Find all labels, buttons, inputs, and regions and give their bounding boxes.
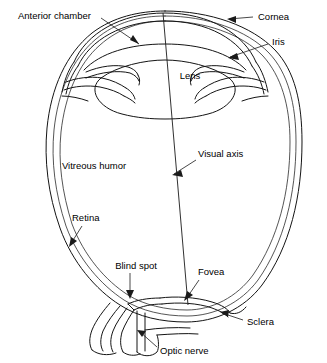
label-anterior-chamber: Anterior chamber: [18, 10, 139, 44]
visual-axis-arrowhead: [172, 170, 183, 177]
retina-label: Retina: [72, 212, 100, 223]
sclera-label: Sclera: [247, 316, 275, 327]
visual-axis-leader: [174, 160, 196, 174]
eye-cross-section-figure: Anterior chamber Cornea Iris Lens Visual…: [0, 0, 327, 363]
fovea-structure: [160, 297, 246, 317]
iris-arrowhead: [228, 53, 239, 60]
blind-spot-structure: [128, 298, 162, 310]
lens-structure: [95, 60, 235, 119]
iris-left: [86, 66, 140, 85]
retina-arrowhead: [69, 237, 77, 247]
fovea-label: Fovea: [198, 266, 225, 277]
anterior-chamber-arrowhead: [130, 35, 139, 44]
label-lens: Lens: [180, 70, 201, 81]
label-cornea: Cornea: [227, 11, 290, 23]
label-blind-spot: Blind spot: [115, 260, 157, 299]
label-fovea: Fovea: [184, 266, 225, 301]
label-visual-axis: Visual axis: [172, 148, 243, 177]
label-vitreous-humor: Vitreous humor: [62, 160, 126, 171]
label-iris: Iris: [228, 36, 285, 60]
lens-label: Lens: [180, 70, 201, 81]
label-sclera: Sclera: [220, 310, 275, 327]
optic-nerve-label: Optic nerve: [160, 345, 209, 356]
eye-diagram-canvas: Anterior chamber Cornea Iris Lens Visual…: [0, 0, 327, 363]
visual-axis-label: Visual axis: [198, 148, 243, 159]
fovea-arrowhead: [184, 291, 193, 301]
blind-spot-label: Blind spot: [115, 260, 157, 271]
iris-label: Iris: [272, 36, 285, 47]
vitreous-humor-label: Vitreous humor: [62, 160, 126, 171]
visual-axis-line: [163, 13, 188, 305]
cornea-label: Cornea: [258, 11, 290, 22]
anterior-chamber-label: Anterior chamber: [18, 10, 91, 21]
